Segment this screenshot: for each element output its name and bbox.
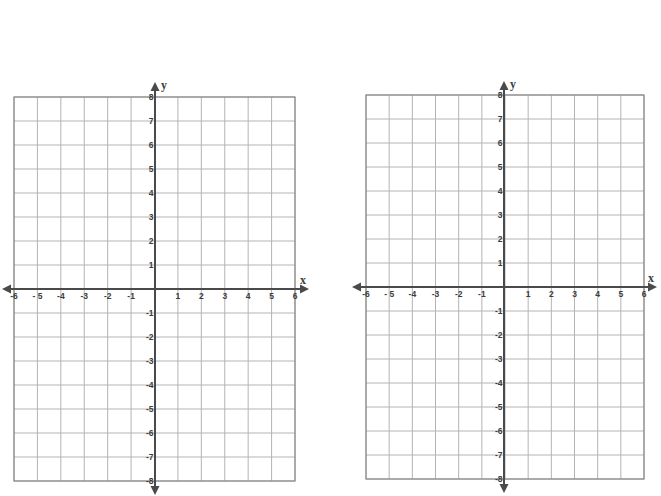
y-tick-label: -6 — [146, 428, 154, 438]
coordinate-planes: xy-6- 5-4-3-2-112345687654321-1-2-3-4-5-… — [0, 0, 661, 496]
x-tick-label: -4 — [409, 289, 417, 299]
y-tick-label: 8 — [149, 92, 154, 102]
y-tick-label: 3 — [149, 212, 154, 222]
arrow-down-icon — [151, 486, 160, 495]
y-axis-label: y — [510, 77, 516, 91]
x-tick-label: - 5 — [32, 291, 42, 301]
y-tick-label: 3 — [498, 210, 503, 220]
x-tick-label: -6 — [362, 289, 370, 299]
y-tick-label: -7 — [146, 452, 154, 462]
x-tick-label: 4 — [595, 289, 600, 299]
x-tick-label: 3 — [222, 291, 227, 301]
coordinate-plane-1: xy-6- 5-4-3-2-112345687654321-1-2-3-4-5-… — [2, 78, 309, 495]
y-tick-label: -3 — [146, 356, 154, 366]
x-tick-label: -3 — [80, 291, 88, 301]
x-tick-label: 6 — [642, 289, 647, 299]
arrow-left-icon — [352, 283, 361, 292]
y-tick-label: 5 — [498, 162, 503, 172]
y-tick-label: 7 — [498, 114, 503, 124]
y-tick-label: -3 — [495, 354, 503, 364]
x-tick-label: 2 — [199, 291, 204, 301]
x-tick-label: 3 — [572, 289, 577, 299]
x-tick-label: -1 — [127, 291, 135, 301]
arrow-up-icon — [500, 81, 509, 90]
y-tick-label: -5 — [495, 402, 503, 412]
x-axis-label: x — [648, 271, 654, 285]
y-tick-label: -4 — [495, 378, 503, 388]
x-tick-labels: -6- 5-4-3-2-1123456 — [10, 291, 297, 301]
y-tick-label: -2 — [146, 332, 154, 342]
y-tick-label: 2 — [498, 234, 503, 244]
x-tick-label: 5 — [618, 289, 623, 299]
y-tick-label: 5 — [149, 164, 154, 174]
y-tick-label: -4 — [146, 380, 154, 390]
x-tick-label: -6 — [10, 291, 18, 301]
coordinate-planes-svg: xy-6- 5-4-3-2-112345687654321-1-2-3-4-5-… — [0, 0, 661, 496]
y-tick-label: -1 — [495, 306, 503, 316]
x-tick-label: 1 — [526, 289, 531, 299]
y-tick-label: -5 — [146, 404, 154, 414]
x-tick-label: -1 — [478, 289, 486, 299]
x-tick-label: 5 — [269, 291, 274, 301]
y-tick-label: 1 — [498, 258, 503, 268]
y-tick-label: 4 — [149, 188, 154, 198]
arrow-up-icon — [151, 82, 160, 91]
y-tick-label: -2 — [495, 330, 503, 340]
y-tick-label: 6 — [149, 140, 154, 150]
y-tick-label: -8 — [495, 474, 503, 484]
x-axis-label: x — [300, 273, 306, 287]
y-axis-label: y — [161, 78, 167, 92]
x-tick-label: -4 — [57, 291, 65, 301]
y-tick-label: 4 — [498, 186, 503, 196]
x-tick-label: 4 — [246, 291, 251, 301]
arrow-down-icon — [500, 484, 509, 493]
y-tick-label: 2 — [149, 236, 154, 246]
x-tick-label: 1 — [176, 291, 181, 301]
y-tick-label: 1 — [149, 260, 154, 270]
x-tick-label: 2 — [549, 289, 554, 299]
y-tick-label: -6 — [495, 426, 503, 436]
x-tick-label: - 5 — [384, 289, 394, 299]
x-tick-label: -3 — [432, 289, 440, 299]
y-tick-label: -1 — [146, 308, 154, 318]
axes: xy — [2, 78, 309, 495]
x-tick-label: -2 — [104, 291, 112, 301]
y-tick-label: 8 — [498, 90, 503, 100]
x-tick-label: 6 — [293, 291, 298, 301]
y-tick-label: 7 — [149, 116, 154, 126]
y-tick-label: -7 — [495, 450, 503, 460]
coordinate-plane-2: xy-6- 5-4-3-2-112345687654321-1-2-3-4-5-… — [352, 77, 657, 493]
y-tick-label: -8 — [146, 476, 154, 486]
y-tick-label: 6 — [498, 138, 503, 148]
x-tick-label: -2 — [455, 289, 463, 299]
